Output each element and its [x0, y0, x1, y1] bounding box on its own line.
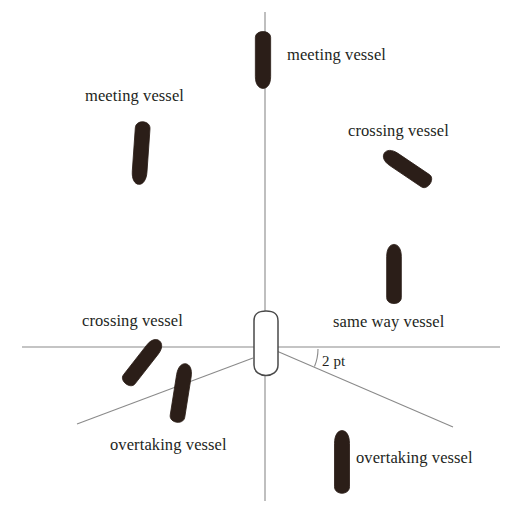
own-vessel: [254, 311, 278, 376]
vessel-encounter-diagram: meeting vessel meeting vessel crossing v…: [0, 0, 518, 509]
diagram-graphics-layer: [0, 0, 518, 509]
label-meeting-vessel-top: meeting vessel: [287, 47, 386, 64]
crossing-vessel-right: [380, 147, 434, 190]
overtaking-vessel-right: [335, 431, 350, 494]
same-way-vessel: [387, 244, 402, 303]
sector-boundary-left-line: [77, 358, 253, 424]
sector-boundary-right-line: [272, 349, 453, 427]
two-point-angle-arc: [315, 349, 319, 367]
label-overtaking-vessel-left: overtaking vessel: [110, 437, 227, 454]
label-meeting-vessel-left: meeting vessel: [85, 88, 184, 105]
crossing-vessel-left: [120, 336, 165, 388]
meeting-vessel-top: [255, 32, 270, 89]
label-overtaking-vessel-right: overtaking vessel: [356, 450, 473, 467]
meeting-vessel-left: [131, 121, 150, 185]
label-crossing-vessel-right: crossing vessel: [348, 123, 449, 140]
label-crossing-vessel-left: crossing vessel: [82, 313, 183, 330]
label-two-point-angle: 2 pt: [322, 354, 345, 369]
label-same-way-vessel: same way vessel: [333, 314, 444, 331]
overtaking-vessel-left: [169, 363, 193, 424]
